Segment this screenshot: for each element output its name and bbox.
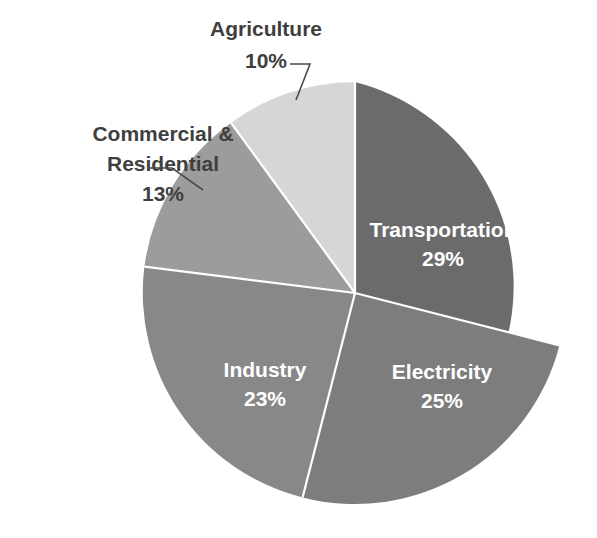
agriculture-value-text: 10%: [245, 49, 287, 72]
electricity-label-text: Electricity: [392, 360, 493, 383]
commercial-residential-label-line2: Residential: [107, 152, 219, 175]
industry-value-text: 23%: [244, 387, 286, 410]
commercial-residential-label-line1: Commercial &: [92, 122, 233, 145]
transportation-label-text: Transportation: [369, 218, 516, 241]
pie-chart-canvas: Transportation 29% Electricity 25% Indus…: [0, 0, 597, 538]
industry-label-text: Industry: [224, 358, 307, 381]
slice-label-agriculture: Agriculture 10%: [210, 17, 322, 100]
electricity-value-text: 25%: [421, 389, 463, 412]
commercial-residential-value-text: 13%: [142, 182, 184, 205]
pie-chart: Transportation 29% Electricity 25% Indus…: [0, 0, 597, 538]
transportation-value-text: 29%: [422, 247, 464, 270]
agriculture-label-text: Agriculture: [210, 17, 322, 40]
